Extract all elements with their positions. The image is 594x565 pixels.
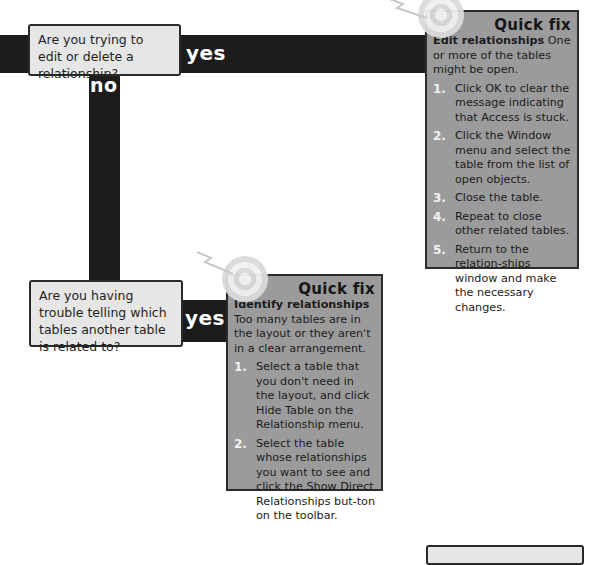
- step-item: 3.Close the table.: [433, 191, 571, 206]
- question-box-2: Are you having trouble telling which tab…: [29, 280, 183, 347]
- step-text: Select a table that you don't need in th…: [256, 360, 375, 433]
- step-number: 2.: [234, 437, 256, 524]
- yes-label-1: yes: [186, 41, 226, 65]
- no-label: no: [90, 74, 118, 96]
- question-box-1: Are you trying to edit or delete a relat…: [28, 24, 181, 76]
- quick-fix-2-steps: 1.Select a table that you don't need in …: [234, 360, 375, 524]
- step-item: 1.Click OK to clear the message indicati…: [433, 82, 571, 126]
- step-item: 5.Return to the relation-ships window an…: [433, 243, 571, 316]
- step-text: Return to the relation-ships window and …: [455, 243, 571, 316]
- yes-label-2: yes: [185, 306, 225, 330]
- step-item: 1.Select a table that you don't need in …: [234, 360, 375, 433]
- dart-icon: [195, 250, 245, 280]
- step-number: 5.: [433, 243, 455, 316]
- step-number: 1.: [433, 82, 455, 126]
- step-text: Repeat to close other related tables.: [455, 210, 571, 239]
- question-box-3-partial: [426, 545, 584, 565]
- connector-no-vertical: [89, 70, 120, 282]
- step-number: 2.: [433, 129, 455, 187]
- step-item: 4.Repeat to close other related tables.: [433, 210, 571, 239]
- question-2-text: Are you having trouble telling which tab…: [39, 288, 167, 354]
- step-item: 2.Click the Window menu and select the t…: [433, 129, 571, 187]
- quick-fix-1-steps: 1.Click OK to clear the message indicati…: [433, 82, 571, 316]
- quick-fix-panel-1: Quick fix Edit relationships One or more…: [425, 10, 579, 269]
- step-text: Close the table.: [455, 191, 571, 206]
- quick-fix-1-intro-block: Edit relationships One or more of the ta…: [433, 34, 571, 78]
- quick-fix-2-heading: Identify relationships: [234, 298, 375, 313]
- quick-fix-2-intro: Too many tables are in the layout or the…: [234, 313, 375, 357]
- step-number: 4.: [433, 210, 455, 239]
- step-text: Click OK to clear the message indicating…: [455, 82, 571, 126]
- quick-fix-panel-2: Quick fix Identify relationships Too man…: [226, 274, 383, 491]
- step-number: 1.: [234, 360, 256, 433]
- step-item: 2.Select the table whose relationships y…: [234, 437, 375, 524]
- dart-icon: [385, 0, 445, 26]
- step-text: Click the Window menu and select the tab…: [455, 129, 571, 187]
- step-number: 3.: [433, 191, 455, 206]
- step-text: Select the table whose relationships you…: [256, 437, 375, 524]
